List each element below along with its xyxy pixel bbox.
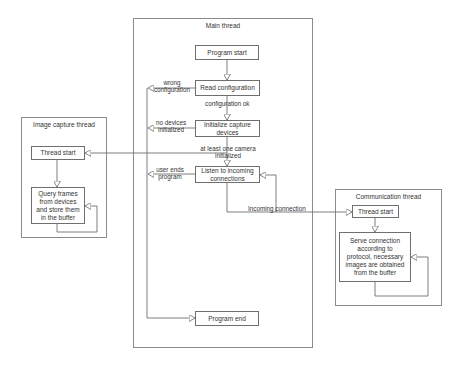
- edge-label-user-ends: user ends program: [152, 166, 188, 180]
- main-thread-frame: Main thread: [133, 18, 313, 348]
- edge-label-no-devices: no devices initialized: [152, 119, 190, 133]
- query-frames-node: Query frames from devices and store them…: [31, 187, 85, 224]
- edge-label-wrong-configuration: wrong configuration: [150, 79, 194, 93]
- listen-connections-node: Listen to incoming connections: [195, 166, 260, 183]
- image-capture-thread-title: Image capture thread: [22, 121, 106, 128]
- program-end-node: Program end: [195, 311, 259, 326]
- edge-label-at-least-one-camera: at least one camera initialized: [196, 145, 260, 159]
- program-start-node: Program start: [195, 45, 259, 60]
- edge-label-configuration-ok: configuration ok: [205, 100, 249, 107]
- edge-label-incoming-connection: Incoming connection: [248, 205, 306, 212]
- main-thread-title: Main thread: [134, 22, 312, 29]
- initialize-capture-node: Initialize capture devices: [195, 120, 260, 137]
- image-thread-start-node: Thread start: [31, 146, 85, 160]
- read-configuration-node: Read configuration: [195, 80, 260, 96]
- communication-thread-title: Communication thread: [336, 193, 441, 200]
- comm-thread-start-node: Thread start: [352, 205, 399, 218]
- serve-connection-node: Serve connection according to protocol, …: [339, 232, 411, 282]
